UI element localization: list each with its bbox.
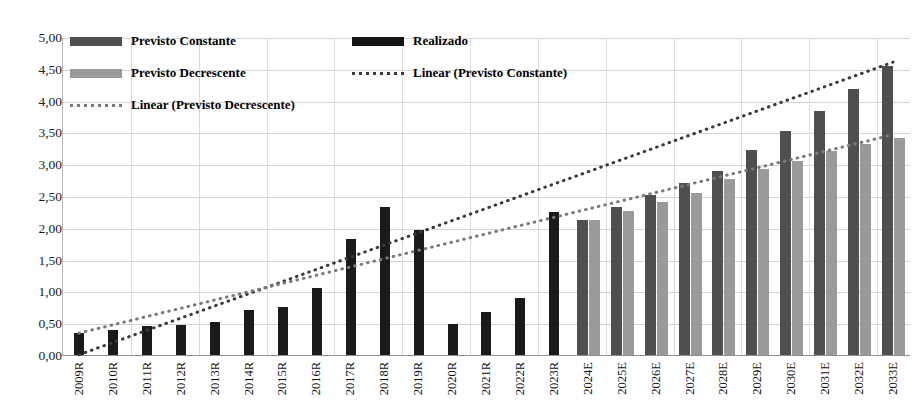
y-axis-tick-label: 1,50 [2,253,62,269]
bar-realizado-2020R [448,324,458,355]
x-axis-tick-label: 2016R [309,362,324,395]
x-axis-tick-label: 2024E [581,362,596,395]
x-axis-tick-label: 2031E [818,362,833,395]
bar-previsto-decrescente-2030E [792,161,803,355]
bar-previsto-constante-2032E [848,89,859,355]
bar-group [809,38,843,355]
bar-previsto-constante-2028E [712,171,723,355]
x-axis-tick-label: 2023R [547,362,562,395]
x-axis-tick-label: 2017R [343,362,358,395]
bar-previsto-constante-2029E [746,150,757,355]
y-axis-tick-label: 5,00 [2,30,62,46]
bar-realizado-2014R [244,310,254,355]
bar-previsto-decrescente-2028E [724,179,735,355]
y-axis-tick-label: 4,50 [2,62,62,78]
x-axis-tick-label: 2010R [106,362,121,395]
y-axis-tick-label: 3,50 [2,125,62,141]
legend-item-realizado[interactable]: Realizado [352,33,468,49]
x-axis-tick-label: 2009R [72,362,87,395]
bar-realizado-2010R [108,330,118,355]
color-swatch-icon [70,37,122,46]
legend-label: Linear (Previsto Constante) [413,65,567,81]
x-axis-tick-label: 2011R [140,362,155,395]
x-axis-tick-label: 2025E [615,362,630,395]
color-swatch-icon [70,69,122,78]
bar-group [843,38,877,355]
bar-realizado-2011R [142,326,152,355]
x-axis-tick-label: 2033E [886,362,901,395]
bar-realizado-2009R [74,333,84,355]
bar-previsto-constante-2030E [780,131,791,355]
x-axis-tick-label: 2029E [750,362,765,395]
bar-chart: 5,004,504,003,503,002,502,001,501,000,50… [0,0,920,409]
bar-realizado-2012R [176,325,186,355]
color-swatch-icon [352,37,404,46]
bar-realizado-2021R [481,312,491,355]
x-axis-tick-label: 2030E [784,362,799,395]
bar-previsto-decrescente-2024E [589,220,600,355]
x-axis-tick-label: 2032E [852,362,867,395]
x-axis-tick-label: 2014R [242,362,257,395]
bar-realizado-2016R [312,288,322,355]
y-axis-tick-label: 2,50 [2,189,62,205]
bar-previsto-constante-2025E [611,207,622,355]
x-axis-tick-label: 2015R [275,362,290,395]
bar-group [775,38,809,355]
bar-previsto-decrescente-2027E [691,193,702,355]
bar-previsto-decrescente-2026E [657,202,668,355]
bar-realizado-2023R [549,212,559,355]
legend-item-linear-previsto-decrescente[interactable]: Linear (Previsto Decrescente) [70,97,295,113]
bar-previsto-decrescente-2032E [860,144,871,355]
bar-realizado-2013R [210,322,220,355]
bar-realizado-2022R [515,298,525,355]
y-axis-tick-label: 4,00 [2,94,62,110]
legend-label: Previsto Decrescente [131,65,246,81]
bar-realizado-2019R [414,230,424,355]
x-axis-tick-label: 2013R [208,362,223,395]
bar-previsto-decrescente-2025E [623,211,634,355]
x-axis-tick-label: 2020R [445,362,460,395]
x-axis-tick-label: 2022R [513,362,528,395]
legend-label: Linear (Previsto Decrescente) [131,97,295,113]
y-axis-tick-label: 0,00 [2,348,62,364]
dotted-line-icon [70,101,122,110]
x-axis-tick-label: 2021R [479,362,494,395]
bar-group [877,38,911,355]
bar-previsto-decrescente-2029E [758,169,769,355]
bar-group [640,38,674,355]
bar-previsto-constante-2024E [577,220,588,355]
bar-realizado-2017R [346,239,356,355]
bar-previsto-constante-2027E [679,183,690,355]
bar-group [674,38,708,355]
x-axis-tick-label: 2018R [377,362,392,395]
y-axis-tick-label: 0,50 [2,316,62,332]
y-axis-tick-label: 3,00 [2,157,62,173]
bar-previsto-constante-2031E [814,111,825,355]
bar-previsto-constante-2033E [882,66,893,355]
legend-label: Realizado [413,33,468,49]
legend-item-previsto-constante[interactable]: Previsto Constante [70,33,236,49]
x-axis-tick-label: 2026E [649,362,664,395]
legend-item-previsto-decrescente[interactable]: Previsto Decrescente [70,65,246,81]
legend-item-linear-previsto-constante[interactable]: Linear (Previsto Constante) [352,65,567,81]
bar-previsto-constante-2026E [645,195,656,355]
x-axis-tick-label: 2012R [174,362,189,395]
chart-legend: Previsto ConstanteRealizadoPrevisto Decr… [70,33,630,128]
x-axis-tick-label: 2028E [716,362,731,395]
dotted-line-icon [352,69,404,78]
bar-group [741,38,775,355]
legend-label: Previsto Constante [131,33,236,49]
y-axis-tick-label: 2,00 [2,221,62,237]
bar-realizado-2018R [380,207,390,355]
bar-previsto-decrescente-2033E [894,138,905,355]
y-axis-tick-label: 1,00 [2,284,62,300]
bar-realizado-2015R [278,307,288,355]
x-axis-tick-label: 2019R [411,362,426,395]
bar-group [707,38,741,355]
bar-previsto-decrescente-2031E [826,151,837,355]
x-axis-tick-label: 2027E [683,362,698,395]
